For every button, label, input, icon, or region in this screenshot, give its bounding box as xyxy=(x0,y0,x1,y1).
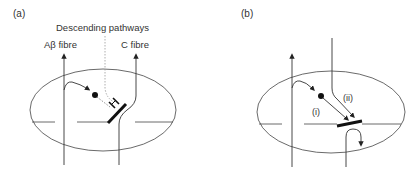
terminal-2 xyxy=(113,98,119,104)
interneuron-projection xyxy=(97,97,110,107)
panel-b: (b) (i) (ii) xyxy=(241,8,405,167)
descending-pathways-label: Descending pathways xyxy=(56,22,149,33)
abeta-collateral xyxy=(64,82,88,90)
panel-a-label: (a) xyxy=(13,8,25,19)
c-fibre-label: C fibre xyxy=(121,39,149,50)
abeta-fibre-label: Aβ fibre xyxy=(44,39,77,50)
path-i-label: (i) xyxy=(312,107,320,117)
terminal-stem xyxy=(112,100,116,104)
panel-b-label: (b) xyxy=(241,8,253,19)
path-ii-arrow xyxy=(332,38,353,116)
dorsal-horn-ellipse-b xyxy=(257,71,405,153)
synapse-bar-b xyxy=(337,121,362,126)
diagram-canvas: (a) Descending pathways Aβ fibre C fibre… xyxy=(0,0,417,174)
panel-a: (a) Descending pathways Aβ fibre C fibre xyxy=(13,8,176,165)
dorsal-horn-ellipse xyxy=(30,69,176,151)
output-loop-arrow xyxy=(346,129,361,167)
path-i-collateral xyxy=(292,81,313,89)
path-ii-label: (ii) xyxy=(343,93,353,103)
